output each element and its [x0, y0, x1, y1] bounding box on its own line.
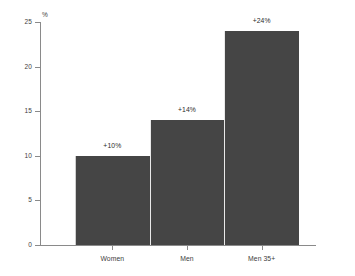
- bar-men-35[interactable]: [224, 31, 299, 245]
- plot-area: +10%+14%+24%: [0, 0, 355, 276]
- x-tick-mark: [112, 246, 113, 250]
- x-category-label: Women: [75, 256, 150, 263]
- x-category-label: Men 35+: [224, 256, 299, 263]
- bar-value-label: +10%: [75, 143, 150, 150]
- bar-value-label: +14%: [150, 107, 225, 114]
- bar-chart: % 0510152025 +10%+14%+24% WomenMenMen 35…: [0, 0, 355, 276]
- bar-men[interactable]: [150, 120, 225, 245]
- x-tick-mark: [262, 246, 263, 250]
- bar-women[interactable]: [75, 156, 150, 245]
- bar-value-label: +24%: [224, 18, 299, 25]
- x-tick-mark: [187, 246, 188, 250]
- x-category-label: Men: [150, 256, 225, 263]
